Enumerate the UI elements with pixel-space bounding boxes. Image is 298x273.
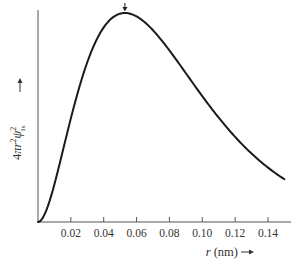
- peak-arrow-icon: [122, 3, 127, 12]
- y-axis-label: 4πr2ψ21s: [9, 125, 27, 160]
- x-tick-label: 0.12: [225, 227, 245, 239]
- x-axis-unit: (nm): [211, 245, 238, 259]
- x-tick-labels: 0.020.040.060.080.100.120.14: [61, 227, 279, 239]
- data-curve: [38, 13, 284, 222]
- x-tick-label: 0.14: [258, 227, 278, 239]
- x-axis-title: r (nm): [206, 245, 238, 259]
- x-tick-label: 0.08: [159, 227, 179, 239]
- y-axis-arrow-icon: [18, 78, 23, 92]
- x-axis-arrow-icon: [241, 250, 254, 255]
- y-axis-title: 4πr2ψ21s: [9, 125, 27, 160]
- x-tick-label: 0.02: [61, 227, 81, 239]
- x-tick-label: 0.04: [94, 227, 114, 239]
- axes: [38, 10, 291, 222]
- chart-canvas: 0.020.040.060.080.100.120.14 r (nm) 4πr2…: [0, 0, 298, 273]
- x-ticks: [71, 217, 268, 222]
- x-tick-label: 0.06: [127, 227, 147, 239]
- x-tick-label: 0.10: [192, 227, 212, 239]
